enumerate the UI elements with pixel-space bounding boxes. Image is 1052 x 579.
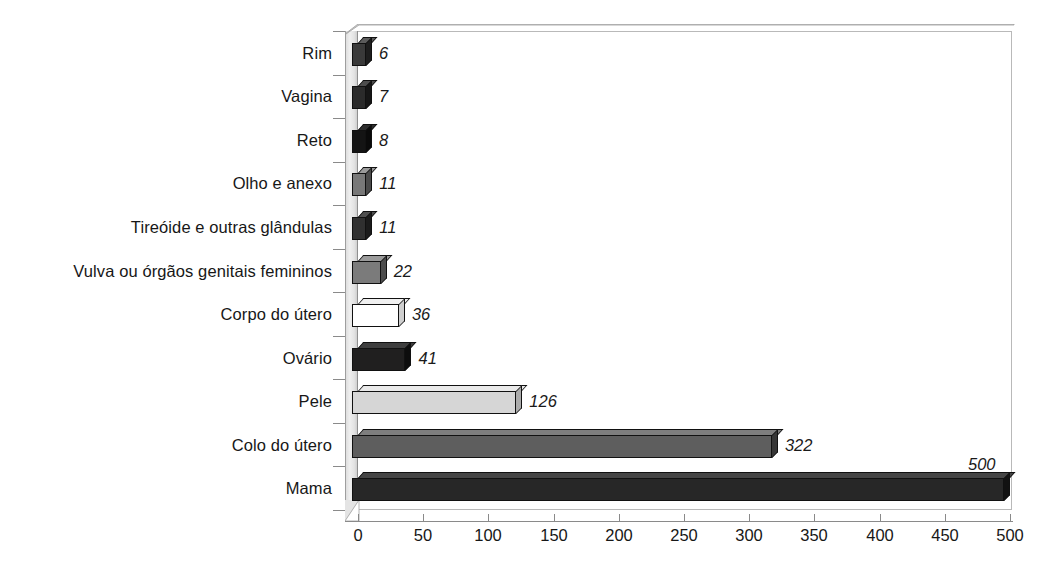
bar-front-face [352,261,381,284]
x-axis-tick [945,514,946,522]
bar-value-label: 322 [785,437,813,454]
bar-side-face [772,429,778,458]
bar-front-face [352,348,405,371]
bar-chart: RimVaginaRetoOlho e anexoTireóide e outr… [0,0,1052,579]
bar-side-face [366,37,372,66]
x-axis-tick-label: 450 [931,527,959,544]
x-axis-tick [358,514,359,522]
x-axis-tick-label: 50 [414,527,432,544]
bar-value-label: 500 [968,456,996,473]
bar-value-label: 11 [379,175,396,192]
x-axis-tick-label: 100 [474,527,502,544]
x-axis-tick [488,514,489,522]
x-axis-tick-label: 500 [996,527,1024,544]
bar-front-face [352,43,366,66]
bar-front-face [352,86,366,109]
bars-layer: 6781111223641126322500 [0,0,1052,579]
bar[interactable]: 11 [352,211,374,241]
x-axis-line [345,521,1013,522]
bar[interactable]: 22 [352,255,389,285]
bar[interactable]: 41 [352,342,413,372]
bar-value-label: 126 [529,393,557,410]
bar-front-face [352,217,366,240]
bar-side-face [366,80,372,109]
bar-front-face [352,304,399,327]
bar[interactable]: 8 [352,124,374,154]
bar-side-face [405,342,411,371]
x-axis-tick-label: 300 [735,527,763,544]
bar-value-label: 11 [379,219,396,236]
bar-front-face [352,391,516,414]
bar-side-face [366,211,372,240]
bar[interactable]: 500 [352,472,1012,502]
x-axis-tick [1010,514,1011,522]
bar[interactable]: 7 [352,80,374,110]
x-axis-tick [423,514,424,522]
x-axis-tick [814,514,815,522]
x-axis-tick [749,514,750,522]
bar[interactable]: 36 [352,298,407,328]
x-axis-tick-label: 150 [540,527,568,544]
bar[interactable]: 11 [352,167,374,197]
bar-front-face [352,173,366,196]
x-axis-tick-label: 200 [605,527,633,544]
bar[interactable]: 6 [352,37,374,67]
bar-value-label: 6 [379,45,388,62]
x-axis-tick-label: 0 [353,527,362,544]
x-axis-tick [554,514,555,522]
bar-side-face [399,298,405,327]
bar[interactable]: 322 [352,429,780,459]
bar-value-label: 22 [394,263,412,280]
x-axis-tick-label: 400 [866,527,894,544]
bar-value-label: 41 [418,350,436,367]
x-axis-tick [619,514,620,522]
bar-value-label: 7 [379,88,388,105]
bar-front-face [352,435,772,458]
bar-value-label: 8 [379,132,388,149]
bar-front-face [352,478,1004,501]
bar-side-face [366,124,372,153]
x-axis-tick-label: 250 [670,527,698,544]
x-axis-tick [684,514,685,522]
bar[interactable]: 126 [352,385,524,415]
bar-side-face [381,255,387,284]
bar-front-face [352,130,366,153]
bar-side-face [516,385,522,414]
x-axis-tick-label: 350 [800,527,828,544]
bar-side-face [1004,472,1010,501]
x-axis-tick [880,514,881,522]
bar-value-label: 36 [412,306,430,323]
bar-side-face [366,167,372,196]
